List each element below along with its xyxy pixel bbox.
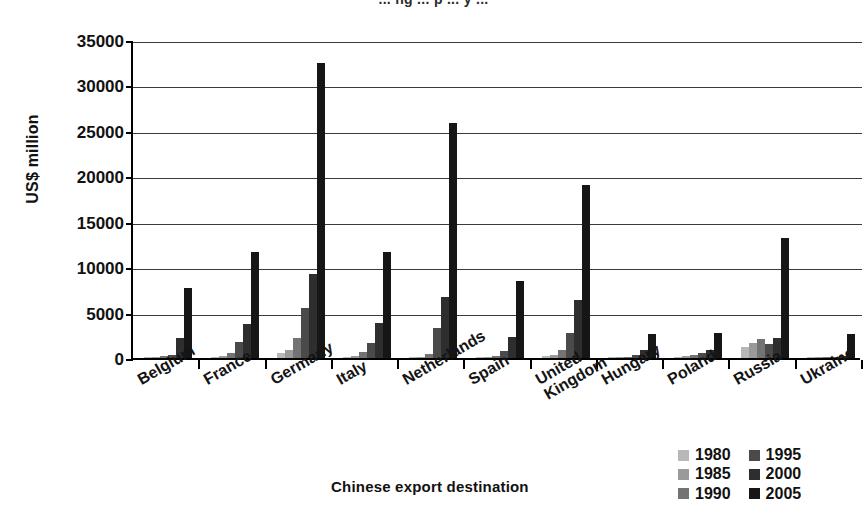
legend-swatch-icon (678, 450, 689, 461)
legend-label: 1990 (695, 485, 731, 503)
x-axis-label-france: France (201, 348, 255, 389)
legend-label: 2005 (766, 485, 802, 503)
x-axis-label-ukraine: Ukraine (798, 345, 857, 389)
legend-item-2000[interactable]: 2000 (749, 465, 802, 483)
x-axis-label-belgium: Belgium (135, 342, 198, 388)
legend-swatch-icon (678, 488, 689, 499)
legend-swatch-icon (749, 469, 760, 480)
legend-label: 2000 (766, 465, 802, 483)
x-axis-label-spain: Spain (466, 352, 512, 388)
x-axis-label-germany: Germany (268, 339, 336, 388)
legend-item-1995[interactable]: 1995 (749, 446, 802, 464)
legend-item-1985[interactable]: 1985 (678, 465, 731, 483)
bar-chart: 35000300002500020000150001000050000 US$ … (0, 0, 867, 531)
legend-label: 1995 (766, 446, 802, 464)
legend-item-2005[interactable]: 2005 (749, 485, 802, 503)
legend-item-1980[interactable]: 1980 (678, 446, 731, 464)
x-axis-title: Chinese export destination (331, 478, 529, 495)
chart-legend: 198019951985200019902005 (678, 446, 801, 503)
legend-swatch-icon (749, 488, 760, 499)
x-axis-label-poland: Poland (665, 347, 720, 388)
legend-item-1990[interactable]: 1990 (678, 485, 731, 503)
legend-label: 1985 (695, 465, 731, 483)
legend-swatch-icon (749, 450, 760, 461)
x-axis-label-russia: Russia (731, 348, 785, 389)
legend-swatch-icon (678, 469, 689, 480)
x-axis-label-italy: Italy (334, 358, 370, 389)
legend-label: 1980 (695, 446, 731, 464)
